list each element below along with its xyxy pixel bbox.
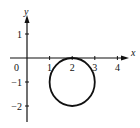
y-tick-label: −1 <box>11 77 22 88</box>
y-tick-label: −2 <box>11 101 22 112</box>
y-tick-label: 1 <box>17 29 22 40</box>
x-axis-arrow-icon <box>121 56 129 61</box>
origin-label: 0 <box>14 62 19 73</box>
x-tick-label: 2 <box>70 62 75 73</box>
coordinate-plot: 1234 1−1−2 x y 0 <box>0 0 140 128</box>
x-tick-label: 4 <box>115 62 120 73</box>
x-axis-label: x <box>130 47 136 58</box>
y-axis-label: y <box>23 6 29 17</box>
